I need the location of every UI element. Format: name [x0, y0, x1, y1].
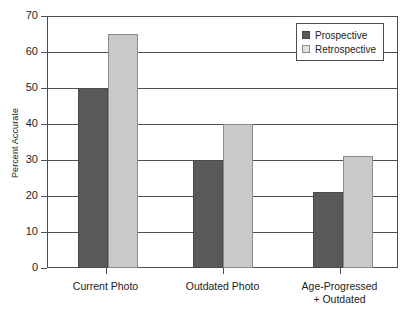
x-tick-mark-3 [340, 268, 341, 274]
chart-legend: Prospective Retrospective [296, 23, 384, 61]
bar-retrospective-group-1 [108, 34, 138, 268]
legend-swatch-retrospective-icon [302, 45, 310, 53]
legend-label-retrospective: Retrospective [315, 44, 376, 55]
x-category-label-1: Current Photo [47, 280, 164, 293]
bar-retrospective-group-3 [343, 156, 373, 268]
x-category-label-2: Outdated Photo [164, 280, 281, 293]
y-tick-label-50: 50 [12, 81, 38, 93]
y-tick-label-60: 60 [12, 45, 38, 57]
y-tick-label-40: 40 [12, 117, 38, 129]
bar-prospective-group-3 [313, 192, 343, 268]
y-tick-label-0: 0 [12, 261, 38, 273]
y-tick-label-20: 20 [12, 189, 38, 201]
legend-swatch-prospective-icon [302, 31, 310, 39]
y-tick-mark-0 [41, 268, 47, 269]
legend-item-retrospective: Retrospective [302, 42, 378, 56]
legend-label-prospective: Prospective [315, 30, 367, 41]
y-tick-label-70: 70 [12, 9, 38, 21]
y-tick-label-10: 10 [12, 225, 38, 237]
bar-retrospective-group-2 [223, 124, 253, 268]
bar-prospective-group-1 [78, 88, 108, 268]
x-tick-mark-2 [223, 268, 224, 274]
bar-prospective-group-2 [193, 160, 223, 268]
x-category-label-3: Age-Progressed + Outdated [281, 280, 398, 306]
bar-chart-figure: Percent Accurate 010203040506070 Current… [0, 0, 409, 324]
legend-item-prospective: Prospective [302, 28, 378, 42]
y-axis-tick-labels: 010203040506070 [8, 16, 38, 268]
x-tick-mark-1 [106, 268, 107, 274]
y-tick-label-30: 30 [12, 153, 38, 165]
